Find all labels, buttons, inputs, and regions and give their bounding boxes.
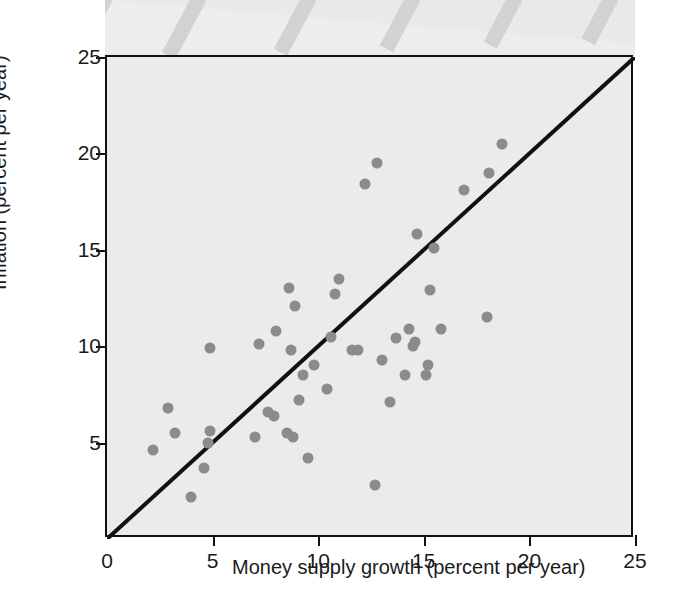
data-point (404, 323, 415, 334)
data-point (330, 289, 341, 300)
data-point (302, 453, 313, 464)
y-axis-tick-label: 5 (89, 431, 101, 455)
y-axis-title: Inflation (percent per year) (0, 55, 11, 290)
plot-area: 5101520250510152025 (105, 55, 633, 537)
decorative-top-band (105, 0, 635, 56)
data-point (372, 158, 383, 169)
reference-line-45deg (107, 57, 635, 539)
data-point (359, 179, 370, 190)
data-point (163, 402, 174, 413)
data-point (429, 242, 440, 253)
data-point (205, 426, 216, 437)
data-point (334, 273, 345, 284)
data-point (410, 337, 421, 348)
data-point (294, 395, 305, 406)
data-point (203, 437, 214, 448)
data-point (186, 491, 197, 502)
data-point (287, 431, 298, 442)
data-point (285, 345, 296, 356)
x-axis-tick (213, 535, 215, 546)
x-axis-tick (529, 535, 531, 546)
data-point (308, 360, 319, 371)
data-point (496, 138, 507, 149)
x-axis-tick-label: 20 (518, 549, 541, 573)
x-axis-tick (635, 535, 637, 546)
data-point (268, 410, 279, 421)
data-point (376, 354, 387, 365)
y-axis-tick-label: 25 (78, 45, 101, 69)
data-point (399, 370, 410, 381)
data-point (425, 285, 436, 296)
data-point (254, 339, 265, 350)
data-point (325, 331, 336, 342)
x-axis-tick-label: 25 (623, 549, 646, 573)
data-point (205, 343, 216, 354)
x-axis-tick (318, 535, 320, 546)
data-point (482, 312, 493, 323)
plot-inner (107, 57, 631, 535)
y-axis-tick-label: 15 (78, 238, 101, 262)
data-point (148, 445, 159, 456)
data-point (199, 462, 210, 473)
x-axis-tick-label: 5 (207, 549, 219, 573)
data-point (412, 229, 423, 240)
data-point (420, 370, 431, 381)
data-point (283, 283, 294, 294)
data-point (458, 185, 469, 196)
data-point (385, 397, 396, 408)
x-axis-tick-label: 15 (412, 549, 435, 573)
data-point (370, 480, 381, 491)
data-point (270, 325, 281, 336)
data-point (484, 167, 495, 178)
data-point (353, 345, 364, 356)
data-point (321, 383, 332, 394)
x-axis-tick (424, 535, 426, 546)
data-point (435, 323, 446, 334)
x-axis-tick-label: 10 (307, 549, 330, 573)
data-point (298, 370, 309, 381)
y-axis-tick-label: 20 (78, 141, 101, 165)
scatter-figure: Inflation (percent per year) Money suppl… (0, 0, 677, 594)
x-axis-tick-label: 0 (101, 549, 113, 573)
data-point (423, 360, 434, 371)
data-point (169, 427, 180, 438)
y-axis-tick-label: 10 (78, 334, 101, 358)
data-point (391, 333, 402, 344)
data-point (249, 431, 260, 442)
data-point (289, 300, 300, 311)
